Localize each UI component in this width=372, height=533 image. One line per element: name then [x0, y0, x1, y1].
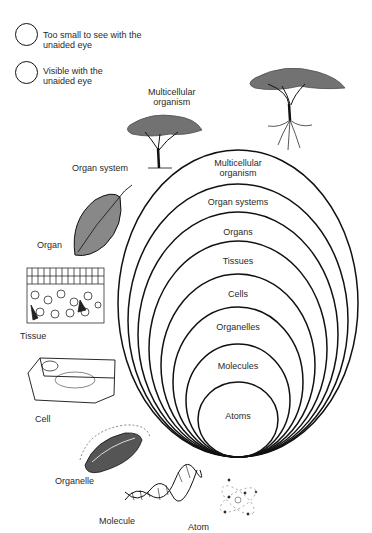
- label-organ: Organ: [37, 240, 62, 250]
- label-molecule: Molecule: [99, 516, 135, 526]
- nested-ellipses: [0, 0, 372, 533]
- label-tissue: Tissue: [20, 331, 46, 341]
- label-organ-system: Organ system: [72, 163, 128, 173]
- level-label-line1: Multicellular: [188, 158, 288, 168]
- label-cell: Cell: [35, 414, 51, 424]
- level-label-atoms: Atoms: [188, 411, 288, 421]
- level-label-organelles: Organelles: [188, 322, 288, 332]
- level-label-tissues: Tissues: [188, 256, 288, 266]
- level-label-multicellular-organism: Multicellular organism: [188, 158, 288, 178]
- label-line1: Multicellular: [148, 87, 196, 97]
- level-label-line2: organism: [188, 168, 288, 178]
- level-label-organ-systems: Organ systems: [188, 197, 288, 207]
- level-label-molecules: Molecules: [188, 361, 288, 371]
- label-atom: Atom: [188, 522, 209, 532]
- label-organelle: Organelle: [55, 476, 94, 486]
- level-label-organs: Organs: [188, 227, 288, 237]
- level-label-cells: Cells: [188, 289, 288, 299]
- label-line2: organism: [148, 97, 196, 107]
- label-multicellular-organism: Multicellular organism: [148, 87, 196, 107]
